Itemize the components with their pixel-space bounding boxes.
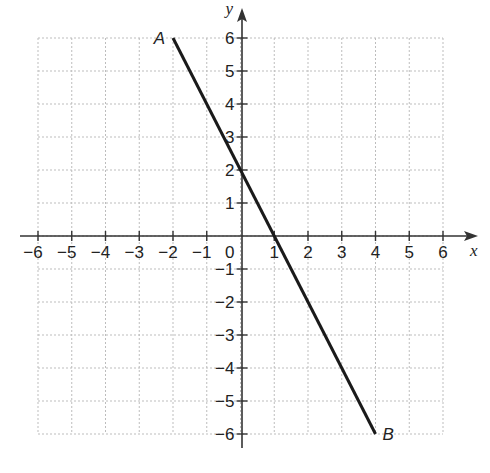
x-tick-label: 5	[405, 243, 414, 262]
x-axis-label: x	[469, 241, 478, 260]
y-tick-label: −2	[215, 293, 234, 312]
y-axis-label: y	[224, 0, 234, 18]
tick-labels: −6−5−4−3−2−1123456−6−5−4−3−2−11234560xy	[23, 0, 478, 444]
y-tick-label: −6	[215, 425, 234, 444]
x-tick-label: 3	[337, 243, 346, 262]
y-tick-label: 1	[225, 194, 234, 213]
y-tick-label: −5	[215, 392, 234, 411]
y-tick-label: 4	[225, 95, 234, 114]
x-tick-label: 1	[270, 243, 279, 262]
y-tick-label: −4	[215, 359, 234, 378]
point-label-b: B	[383, 425, 394, 444]
y-tick-label: 2	[225, 161, 234, 180]
x-tick-label: 4	[371, 243, 380, 262]
x-tick-label: −2	[158, 243, 177, 262]
y-tick-label: 6	[225, 29, 234, 48]
x-tick-label: −3	[125, 243, 144, 262]
x-tick-label: 6	[438, 243, 447, 262]
origin-label: 0	[225, 243, 234, 262]
x-tick-label: −5	[57, 243, 76, 262]
x-tick-label: 2	[303, 243, 312, 262]
y-tick-label: −3	[215, 326, 234, 345]
y-tick-label: 5	[225, 62, 234, 81]
x-tick-label: −4	[91, 243, 110, 262]
x-tick-label: −1	[192, 243, 211, 262]
y-tick-label: −1	[215, 260, 234, 279]
x-tick-label: −6	[23, 243, 42, 262]
coordinate-plane: −6−5−4−3−2−1123456−6−5−4−3−2−11234560xy …	[0, 0, 490, 473]
point-label-a: A	[153, 29, 165, 48]
